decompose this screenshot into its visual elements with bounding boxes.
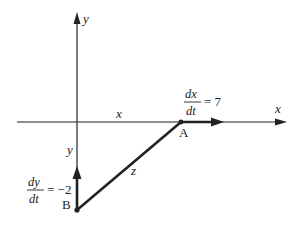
y-axis-arrowhead xyxy=(74,12,81,24)
dy-dt-denominator: dt xyxy=(29,192,39,206)
dx-dt-denominator: dt xyxy=(186,104,196,118)
horizontal-leg-label: x xyxy=(115,106,122,121)
dy-dt-value: = −2 xyxy=(47,182,71,197)
vertical-leg-label: y xyxy=(65,142,73,157)
hypotenuse-z xyxy=(77,122,181,210)
x-axis-label: x xyxy=(274,101,281,116)
dx-dt-numerator: dx xyxy=(185,87,197,101)
dy-dt-numerator: dy xyxy=(28,175,40,189)
x-axis-arrowhead xyxy=(275,119,287,126)
dx-dt-arrowhead xyxy=(211,118,224,127)
dx-dt-value: = 7 xyxy=(204,94,222,109)
y-axis-label: y xyxy=(81,11,89,26)
hypotenuse-label: z xyxy=(130,163,136,178)
point-a xyxy=(179,120,184,125)
point-b xyxy=(74,207,79,212)
dx-dt-equation: dx dt = 7 xyxy=(184,87,222,118)
point-a-label: A xyxy=(179,125,189,140)
related-rates-diagram: y x x z y A B dx dt = 7 dy dt = −2 xyxy=(0,0,299,225)
dy-dt-arrowhead xyxy=(73,166,82,179)
point-b-label: B xyxy=(62,197,71,212)
